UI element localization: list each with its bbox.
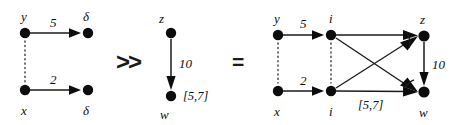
node-delta-bottom-left (83, 85, 93, 95)
node-x-right (273, 86, 283, 96)
node-w-right (418, 86, 429, 97)
arrowhead-z-w-middle (166, 76, 175, 90)
label-node-delta-bottom-left: δ (83, 104, 89, 117)
label-node-i-top-right: i (329, 12, 333, 25)
label-interval-right: [5,7] (358, 99, 383, 112)
edge-itop-w (336, 38, 405, 84)
arrowhead-z-w-right (419, 72, 428, 86)
arrowhead-y-i-top (312, 30, 324, 40)
node-i-bottom-right (326, 86, 336, 96)
label-node-x-left: x (21, 104, 27, 117)
edge-ibot-w (336, 91, 408, 92)
node-y-left (20, 28, 30, 38)
node-z-middle (166, 28, 176, 38)
label-node-delta-top-left: δ (83, 10, 89, 23)
label-node-z-right: z (420, 13, 425, 26)
node-y-right (273, 30, 283, 40)
label-weight-x-delta-bottom: 2 (50, 73, 57, 86)
node-delta-top-left (83, 28, 93, 38)
label-weight-z-w-middle: 10 (179, 57, 192, 70)
label-interval-middle: [5,7] (183, 90, 208, 103)
arrowhead-x-delta-bottom (69, 85, 81, 95)
label-weight-z-w-right: 10 (432, 58, 445, 71)
node-w-middle (166, 91, 176, 101)
label-node-x-right: x (274, 105, 280, 118)
node-z-right (418, 30, 429, 41)
operator-compose: >> (116, 50, 140, 74)
label-weight-y-delta-top: 5 (50, 16, 57, 29)
graph-composition-figure: y δ x δ 5 2 >> z w 10 [5,7] = y i z x i … (0, 0, 467, 125)
graph-right (273, 30, 430, 98)
label-weight-y-i-top: 5 (300, 17, 307, 30)
label-node-w-right: w (419, 106, 428, 119)
label-weight-x-i-bottom: 2 (300, 74, 307, 87)
arrowhead-x-i-bottom (312, 86, 324, 96)
arrowhead-y-delta-top (69, 28, 81, 38)
operator-equals: = (232, 51, 244, 72)
label-node-y-left: y (21, 10, 27, 23)
label-node-i-bottom-right: i (329, 105, 333, 118)
label-node-z-middle: z (159, 12, 164, 25)
label-node-w-middle: w (160, 108, 169, 121)
node-i-top-right (326, 30, 336, 40)
label-node-y-right: y (274, 12, 280, 25)
edge-ibot-z (336, 44, 405, 88)
node-x-left (20, 85, 30, 95)
graph-middle (166, 28, 176, 101)
